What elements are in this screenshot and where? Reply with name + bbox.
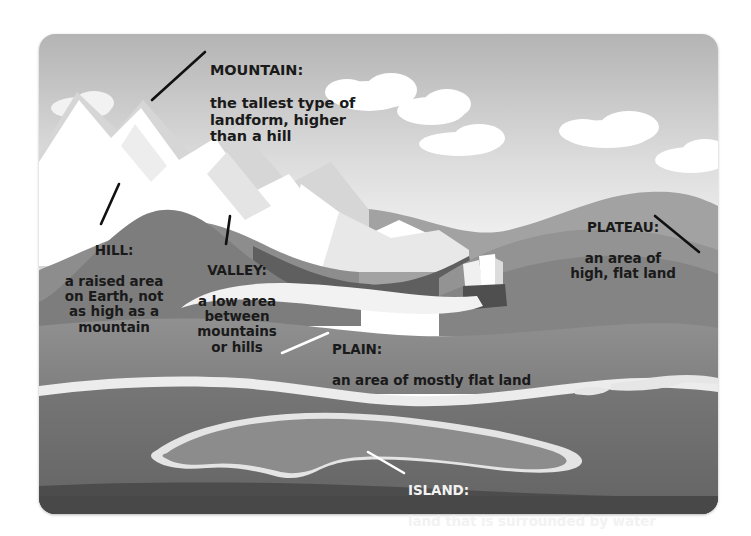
label-valley-term: VALLEY: bbox=[207, 262, 267, 278]
label-plain-description: an area of mostly flat land bbox=[332, 372, 531, 388]
label-island: ISLAND: land that is surrounded by water bbox=[408, 468, 656, 529]
label-island-term: ISLAND: bbox=[408, 482, 469, 498]
label-mountain: MOUNTAIN: the tallest type of landform, … bbox=[210, 46, 355, 144]
figure-canvas: MOUNTAIN: the tallest type of landform, … bbox=[0, 0, 751, 536]
label-hill-term: HILL: bbox=[95, 242, 133, 258]
label-valley: VALLEY: a low area between mountains or … bbox=[176, 248, 298, 355]
label-island-description: land that is surrounded by water bbox=[408, 513, 656, 529]
label-plateau-term: PLATEAU: bbox=[587, 219, 659, 235]
label-plateau-description: an area of high, flat land bbox=[570, 250, 676, 281]
label-mountain-description: the tallest type of landform, higher tha… bbox=[210, 95, 355, 144]
label-plain: PLAIN: an area of mostly flat land bbox=[332, 327, 531, 388]
label-mountain-term: MOUNTAIN: bbox=[210, 62, 303, 78]
label-plain-term: PLAIN: bbox=[332, 341, 382, 357]
label-hill-description: a raised area on Earth, not as high as a… bbox=[65, 273, 164, 335]
label-valley-description: a low area between mountains or hills bbox=[197, 293, 277, 355]
label-plateau: PLATEAU: an area of high, flat land bbox=[548, 205, 698, 281]
label-hill: HILL: a raised area on Earth, not as hig… bbox=[44, 228, 184, 335]
